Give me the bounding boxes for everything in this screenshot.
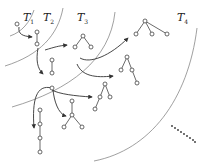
- arrow-t2-down: [37, 48, 43, 74]
- region-boundaries: [5, 8, 197, 161]
- arrow-t1-t2: [19, 27, 32, 37]
- region-label-t4: T4: [177, 12, 188, 25]
- region-label-t2: T2: [43, 12, 54, 25]
- tree-regions-diagram: [0, 0, 203, 168]
- tree-nodes: [15, 19, 169, 154]
- boundary-t3: [12, 12, 115, 107]
- continuation-dots: [171, 125, 196, 143]
- arrow-t2-t3: [45, 45, 67, 50]
- tree-edges: [37, 21, 167, 152]
- arrow-left-down: [34, 87, 52, 128]
- arrow-t3-mid: [77, 64, 113, 77]
- arrow-t3-down: [52, 90, 92, 97]
- region-label-t3: T3: [77, 12, 88, 25]
- region-label-t1: T1: [23, 12, 34, 25]
- mapping-arrows: [19, 27, 128, 128]
